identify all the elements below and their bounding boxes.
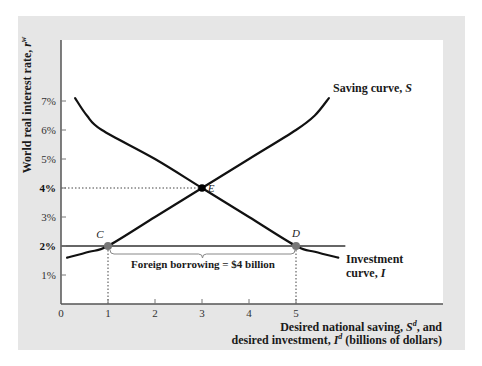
x-tick-label: 5	[293, 307, 299, 319]
y-tick-label: 5%	[41, 153, 56, 165]
point-label-c: C	[96, 228, 104, 240]
investment-curve-label-line2: curve, I	[346, 266, 387, 280]
foreign-borrowing-label: Foreign borrowing = $4 billion	[131, 258, 275, 270]
x-tick-label: 0	[58, 307, 64, 319]
point-label-e: E	[207, 182, 215, 194]
y-tick-label: 3%	[41, 211, 56, 223]
point-c	[104, 242, 112, 250]
y-tick-label: 1%	[41, 269, 56, 281]
y-tick-label: 6%	[41, 124, 56, 136]
y-tick-label: 4%	[40, 182, 57, 194]
y-tick-label: 7%	[41, 95, 56, 107]
x-tick-label: 1	[105, 307, 111, 319]
chart: World real interest rate, rw 1%2%3%4%5%6…	[0, 0, 482, 366]
x-tick-label: 4	[246, 307, 252, 319]
point-d	[292, 242, 300, 250]
y-axis-title: World real interest rate, rw	[19, 36, 34, 173]
saving-curve-label: Saving curve, S	[333, 81, 412, 95]
x-tick-label: 3	[199, 307, 205, 319]
investment-curve-label-line1: Investment	[346, 252, 403, 266]
point-e	[198, 184, 206, 192]
x-axis-title-line1: Desired national saving, Sd, and	[280, 319, 442, 334]
y-tick-label: 2%	[40, 240, 57, 252]
x-axis-title-line2: desired investment, Id (billions of doll…	[232, 332, 442, 347]
x-tick-label: 2	[152, 307, 158, 319]
point-label-d: D	[291, 227, 300, 239]
